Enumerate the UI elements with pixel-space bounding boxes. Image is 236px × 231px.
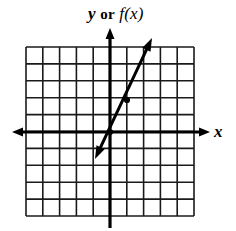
function-arrow-lower xyxy=(95,145,105,159)
function-point-marker xyxy=(124,97,130,103)
y-axis-arrow-up xyxy=(106,28,115,39)
function-point-marker xyxy=(107,129,113,135)
x-axis-arrow-left xyxy=(12,128,23,137)
coordinate-plot xyxy=(0,0,236,231)
function-line-segment xyxy=(99,46,148,151)
graph-figure: y or f(x) x xyxy=(0,0,236,231)
x-axis-arrow-right xyxy=(199,128,210,137)
